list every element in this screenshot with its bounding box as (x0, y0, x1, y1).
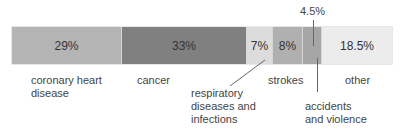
label-accidents: accidents and violence (305, 100, 367, 126)
label-other: other (345, 74, 370, 87)
label-respiratory: respiratory diseases and infections (191, 87, 256, 126)
label-cancer: cancer (137, 74, 170, 87)
label-strokes: strokes (268, 74, 303, 87)
label-coronary-heart-disease: coronary heart disease (31, 74, 102, 100)
